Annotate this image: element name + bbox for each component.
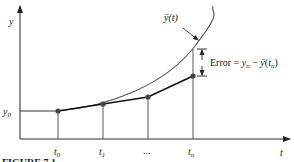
y-axis-label: y [8, 16, 14, 27]
y0-label: y0 [2, 106, 11, 119]
tick-label-t1: t1 [99, 146, 105, 159]
point-t0 [55, 108, 60, 113]
point-t1 [100, 101, 105, 106]
tick-label-tn: tn [188, 146, 195, 159]
tick-label-ellipsis: ... [143, 145, 151, 156]
point-t2 [145, 94, 150, 99]
figure-caption: FIGURE 7.1 [2, 157, 56, 162]
euler-approximation-line [58, 76, 193, 111]
curve-label: ȳ(t) [163, 12, 179, 24]
error-bracket [197, 49, 207, 76]
curve-label-arrow [183, 28, 198, 40]
error-label: Error = yn − ȳ(tn) [210, 57, 278, 70]
point-tn [190, 73, 195, 78]
euler-error-diagram: y t y0 t0 t1 ... tn ȳ(t) Error = yn − ȳ(… [0, 0, 294, 162]
true-solution-curve [58, 6, 214, 111]
x-axis-label: t [280, 147, 283, 158]
